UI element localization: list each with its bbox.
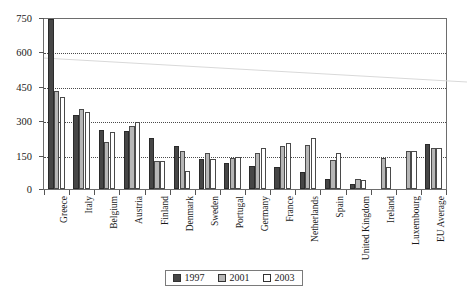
x-tick-label-text: Spain	[336, 196, 346, 218]
x-tick-label-text: Netherlands	[311, 196, 321, 242]
x-tick-label-text: Italy	[85, 196, 95, 213]
bar-2001	[355, 179, 360, 189]
bar-group	[371, 18, 396, 189]
y-tick-label-450: 450	[16, 83, 32, 94]
x-tick-label: Greece	[60, 169, 70, 196]
y-tick-label-150: 150	[16, 151, 32, 162]
x-tick-label-text: Ireland	[387, 196, 397, 223]
bar-1997	[124, 131, 129, 189]
legend-label-2001: 2001	[230, 273, 250, 283]
bar-group	[44, 18, 69, 189]
x-tick	[145, 190, 146, 195]
bar-2001	[381, 158, 386, 189]
bar-1997	[48, 19, 53, 189]
x-tick	[119, 190, 120, 195]
bar-group	[69, 18, 94, 189]
x-tick-label: EU Average	[437, 150, 447, 196]
x-tick-label: Luxembourg	[412, 147, 422, 196]
x-tick-label: United Kingdom	[362, 132, 372, 196]
bar-2001	[154, 161, 159, 189]
x-tick-label: Finland	[161, 167, 171, 196]
x-tick	[44, 190, 45, 195]
bar-2003	[85, 112, 90, 189]
x-tick-label-text: Belgium	[110, 196, 120, 229]
bar-2001	[54, 91, 59, 189]
bar-1997	[425, 144, 430, 189]
y-tick-label-0: 0	[27, 185, 32, 196]
bar-2001	[205, 153, 210, 189]
bar-2001	[230, 158, 235, 189]
x-tick-label: Germany	[261, 161, 271, 196]
x-tick-label-text: France	[286, 196, 296, 222]
bar-1997	[149, 138, 154, 189]
y-tick-label-600: 600	[16, 48, 32, 59]
x-tick-label-text: United Kingdom	[362, 196, 372, 260]
bar-1997	[274, 167, 279, 189]
x-tick-label-text: Sweden	[211, 196, 221, 226]
x-tick-label: Denmark	[186, 161, 196, 196]
chart-legend: 1997 2001 2003	[165, 270, 303, 286]
bar-group	[145, 18, 170, 189]
bar-2001	[431, 148, 436, 189]
bar-1997	[199, 159, 204, 189]
x-tick-label-text: Germany	[261, 196, 271, 231]
bar-2001	[305, 145, 310, 189]
y-tick-label-300: 300	[16, 117, 32, 128]
legend-label-2003: 2003	[275, 273, 295, 283]
x-tick-label: Italy	[85, 179, 95, 196]
x-tick-label-text: Finland	[161, 196, 171, 225]
bar-2001	[104, 142, 109, 189]
bar-2001	[129, 126, 134, 189]
x-tick-label-text: Greece	[60, 196, 70, 223]
x-tick-label: Spain	[336, 174, 346, 196]
x-tick-label: Portugal	[236, 164, 246, 196]
legend-item-1997: 1997	[173, 273, 205, 283]
bar-2001	[180, 151, 185, 189]
bar-chart: 750 600 450 300 150 0 GreeceItalyBelgium…	[0, 0, 467, 307]
bar-1997	[224, 163, 229, 189]
bar-2001	[330, 160, 335, 189]
x-tick-label-text: EU Average	[437, 196, 447, 242]
x-tick-label-text: Portugal	[236, 196, 246, 228]
bar-1997	[300, 172, 305, 189]
bar-2001	[79, 109, 84, 189]
x-tick-label: Netherlands	[311, 150, 321, 196]
x-tick-label-text: Austria	[135, 196, 145, 224]
series-1997-swatch-icon	[173, 274, 181, 282]
legend-item-2001: 2001	[218, 273, 250, 283]
x-tick-label: Ireland	[387, 169, 397, 196]
bar-group	[270, 18, 295, 189]
x-tick-label-text: Denmark	[186, 196, 196, 231]
y-tick-label-750: 750	[16, 14, 32, 25]
bar-group	[320, 18, 345, 189]
x-tick	[346, 190, 347, 195]
x-tick-label: Austria	[135, 168, 145, 196]
bar-1997	[73, 115, 78, 189]
bar-group	[195, 18, 220, 189]
x-tick-label: Belgium	[110, 163, 120, 196]
bar-group	[119, 18, 144, 189]
bar-2001	[255, 153, 260, 189]
bar-1997	[174, 146, 179, 189]
series-2001-swatch-icon	[218, 274, 226, 282]
bar-1997	[99, 130, 104, 189]
x-tick	[320, 190, 321, 195]
bar-1997	[325, 179, 330, 189]
x-tick-label: France	[286, 170, 296, 196]
legend-label-1997: 1997	[185, 273, 205, 283]
bar-2001	[406, 151, 411, 189]
bar-2001	[280, 146, 285, 189]
series-2003-swatch-icon	[263, 274, 271, 282]
x-tick-label-text: Luxembourg	[412, 196, 422, 245]
x-tick-label: Sweden	[211, 166, 221, 196]
legend-item-2003: 2003	[263, 273, 295, 283]
bar-1997	[249, 166, 254, 189]
